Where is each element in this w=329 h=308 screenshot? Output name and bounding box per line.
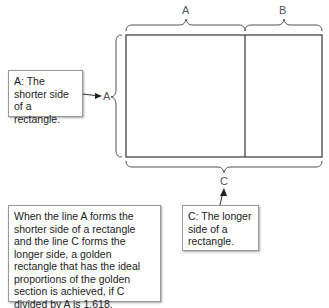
label-c-bottom: C [220,175,228,187]
brace-a-left [111,35,122,157]
explanation-box: When the line A forms the shorter side o… [8,205,161,302]
brace-a-top [126,19,245,31]
note-c: C: The longer side of a rectangle. [182,205,259,251]
note-a: A: The shorter side of a rectangle. [8,70,83,117]
golden-rectangle [126,35,322,157]
brace-c-bottom [126,161,322,173]
label-b-top: B [279,4,286,16]
label-a-left: A [103,90,110,102]
brace-b-top [245,19,322,31]
label-a-top: A [182,4,189,16]
